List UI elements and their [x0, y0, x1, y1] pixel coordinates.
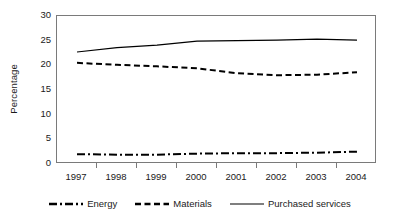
y-axis-tick-label: 15 — [22, 84, 51, 94]
x-axis-tick-label: 2004 — [336, 170, 376, 183]
series-line-purchased-services — [77, 39, 357, 52]
x-axis-tick-label: 2002 — [256, 170, 296, 183]
dash-dot-line-swatch — [49, 200, 83, 208]
dashed-line-swatch — [135, 200, 169, 208]
legend-label: Materials — [173, 198, 212, 210]
legend-item[interactable]: Energy — [49, 198, 117, 210]
y-axis-tick-label: 10 — [22, 109, 51, 119]
x-axis-tick-mark — [96, 163, 97, 168]
series-line-materials — [77, 63, 357, 75]
x-axis-tick-label: 1998 — [96, 170, 136, 183]
line-chart: Percentage 302520151050 1997199819992000… — [0, 0, 400, 221]
y-axis-tick-label: 0 — [22, 158, 51, 168]
x-axis-tick-mark — [336, 163, 337, 168]
x-axis-tick-mark — [176, 163, 177, 168]
x-axis-tick-label: 1997 — [56, 170, 96, 183]
x-axis-tick-label: 2000 — [176, 170, 216, 183]
chart-legend: EnergyMaterialsPurchased services — [0, 196, 400, 212]
x-axis-tick-mark — [256, 163, 257, 168]
plot-area — [56, 15, 376, 163]
legend-label: Energy — [87, 198, 117, 210]
y-axis-tick-label: 30 — [22, 10, 51, 20]
y-axis-tick-label: 25 — [22, 35, 51, 45]
legend-item[interactable]: Purchased services — [230, 198, 351, 210]
x-axis-tick-mark — [136, 163, 137, 168]
series-line-energy — [77, 152, 357, 155]
x-axis-tick-labels: 19971998199920002001200220032004 — [56, 170, 376, 184]
legend-label: Purchased services — [268, 198, 351, 210]
y-axis-tick-labels: 302520151050 — [22, 0, 51, 221]
x-axis-tick-marks — [56, 163, 376, 168]
x-axis-tick-mark — [216, 163, 217, 168]
solid-line-swatch — [230, 200, 264, 208]
x-axis-tick-label: 2003 — [296, 170, 336, 183]
x-axis-tick-label: 1999 — [136, 170, 176, 183]
legend-item[interactable]: Materials — [135, 198, 212, 210]
x-axis-tick-mark — [296, 163, 297, 168]
y-axis-title: Percentage — [6, 15, 22, 163]
y-axis-tick-label: 20 — [22, 59, 51, 69]
y-axis-tick-label: 5 — [22, 133, 51, 143]
x-axis-tick-label: 2001 — [216, 170, 256, 183]
series-canvas — [57, 16, 377, 164]
